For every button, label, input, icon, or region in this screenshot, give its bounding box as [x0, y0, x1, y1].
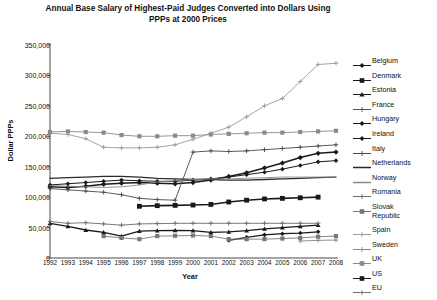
- legend-item-label: Denmark: [372, 71, 401, 80]
- legend-item-label: EU: [372, 283, 382, 292]
- data-point-marker: [262, 237, 266, 241]
- legend-item-uk[interactable]: UK: [352, 254, 437, 269]
- diamond-marker-icon: [352, 115, 372, 126]
- legend-marker-glyph: [352, 89, 372, 100]
- data-point-marker: [101, 190, 106, 195]
- data-point-marker: [209, 149, 214, 154]
- data-point-marker: [226, 174, 231, 179]
- data-point-marker: [316, 230, 321, 235]
- legend-item-italy[interactable]: Italy: [352, 144, 437, 159]
- data-point-marker: [244, 149, 249, 154]
- legend-item-label: Ireland: [372, 129, 394, 138]
- data-point-marker: [262, 104, 267, 109]
- legend-item-spain[interactable]: Spain: [352, 225, 437, 240]
- series-slovak-republic: [102, 233, 339, 241]
- legend-item-france[interactable]: France: [352, 100, 437, 115]
- data-point-marker: [280, 196, 285, 201]
- legend-item-label: Belgium: [372, 56, 398, 65]
- data-point-marker: [280, 160, 285, 165]
- data-point-marker: [334, 158, 339, 163]
- legend-item-belgium[interactable]: Belgium: [352, 56, 437, 71]
- legend-item-denmark[interactable]: Denmark: [352, 71, 437, 86]
- legend-marker-glyph: [352, 191, 372, 202]
- legend-marker-glyph: [352, 229, 372, 240]
- data-point-marker: [359, 63, 364, 68]
- data-point-marker: [316, 195, 321, 200]
- data-point-marker: [155, 221, 160, 226]
- series-denmark: [137, 195, 321, 209]
- data-point-marker: [101, 182, 106, 187]
- data-point-marker: [209, 221, 214, 226]
- data-point-marker: [119, 133, 123, 137]
- data-point-marker: [208, 202, 213, 207]
- data-point-marker: [262, 147, 267, 152]
- data-point-marker: [280, 146, 285, 151]
- data-point-marker: [333, 149, 338, 154]
- data-point-marker: [359, 194, 364, 199]
- legend-item-sweden[interactable]: Sweden: [352, 240, 437, 255]
- data-point-marker: [298, 130, 302, 134]
- plus-marker-icon: [352, 226, 372, 237]
- legend-item-label: Romania: [372, 187, 401, 196]
- data-point-marker: [298, 231, 303, 236]
- data-point-marker: [227, 237, 231, 241]
- legend-item-us[interactable]: US: [352, 269, 437, 284]
- legend-item-norway[interactable]: Norway: [352, 173, 437, 188]
- data-point-marker: [209, 132, 213, 136]
- data-point-marker: [101, 145, 106, 150]
- legend-item-slovak-republic[interactable]: Slovak Republic: [352, 202, 437, 225]
- data-point-marker: [173, 203, 178, 208]
- data-point-marker: [360, 209, 365, 214]
- square-marker-icon: [352, 203, 372, 214]
- data-point-marker: [262, 131, 266, 135]
- square-marker-icon: [352, 72, 372, 83]
- data-point-marker: [83, 136, 88, 141]
- data-point-marker: [262, 233, 267, 238]
- data-point-marker: [137, 134, 141, 138]
- legend-marker-glyph: [352, 177, 372, 188]
- legend-item-label: UK: [372, 254, 382, 263]
- data-point-marker: [359, 290, 364, 295]
- data-point-marker: [262, 221, 267, 226]
- legend-item-romania[interactable]: Romania: [352, 187, 437, 202]
- data-point-marker: [244, 115, 249, 120]
- data-point-marker: [66, 129, 70, 133]
- legend-item-hungary[interactable]: Hungary: [352, 114, 437, 129]
- data-point-marker: [191, 221, 196, 226]
- data-point-marker: [155, 134, 159, 138]
- data-point-marker: [298, 155, 303, 160]
- data-point-marker: [298, 195, 303, 200]
- none-marker-icon: [352, 159, 372, 170]
- data-point-marker: [191, 150, 196, 155]
- data-point-marker: [280, 221, 285, 226]
- series-uk: [48, 129, 338, 139]
- data-point-marker: [244, 221, 249, 226]
- diamond-marker-icon: [352, 130, 372, 141]
- data-point-marker: [173, 221, 178, 226]
- data-point-marker: [244, 198, 249, 203]
- series-ireland: [47, 149, 338, 190]
- data-point-marker: [137, 196, 142, 201]
- legend-item-eu[interactable]: EU: [352, 283, 437, 298]
- data-point-marker: [209, 234, 213, 238]
- data-point-marker: [191, 233, 195, 237]
- legend-item-netherlands[interactable]: Netherlands: [352, 158, 437, 173]
- data-point-marker: [155, 145, 160, 150]
- data-point-marker: [360, 276, 365, 281]
- data-point-marker: [334, 234, 338, 238]
- data-point-marker: [316, 160, 321, 165]
- legend-item-estonia[interactable]: Estonia: [352, 85, 437, 100]
- data-point-marker: [119, 223, 124, 228]
- data-point-marker: [137, 237, 141, 241]
- data-point-marker: [48, 130, 52, 134]
- data-point-marker: [226, 125, 231, 130]
- legend-marker-glyph: [352, 75, 372, 86]
- data-point-marker: [262, 165, 267, 170]
- data-point-marker: [119, 236, 123, 240]
- data-point-marker: [83, 220, 88, 225]
- data-point-marker: [280, 167, 285, 172]
- legend-item-ireland[interactable]: Ireland: [352, 129, 437, 144]
- data-point-marker: [119, 181, 124, 186]
- series-italy: [48, 143, 339, 203]
